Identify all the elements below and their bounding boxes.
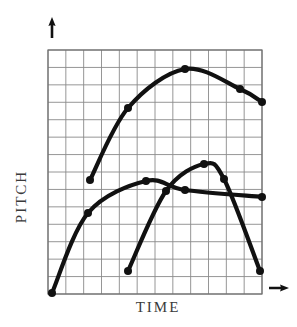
data-point-marker [48, 289, 56, 297]
data-point-marker [220, 175, 228, 183]
grid-layer [48, 50, 262, 294]
pitch-contour-figure: PITCH TIME [0, 0, 297, 327]
data-point-marker [258, 98, 266, 106]
data-point-marker [258, 193, 266, 201]
x-axis-label: TIME [108, 299, 208, 316]
data-point-marker [181, 186, 189, 194]
pitch-contour-line [90, 69, 262, 180]
data-point-marker [256, 267, 264, 275]
data-point-marker [200, 160, 208, 168]
data-point-marker [124, 104, 132, 112]
data-point-marker [86, 176, 94, 184]
data-point-marker [162, 187, 170, 195]
plot-canvas [0, 0, 297, 327]
arrow-up-icon [48, 17, 55, 38]
arrow-right-icon [269, 284, 289, 291]
data-point-marker [181, 65, 189, 73]
data-point-marker [124, 267, 132, 275]
y-axis-label: PITCH [13, 162, 30, 232]
data-point-marker [236, 85, 244, 93]
data-point-marker [142, 177, 150, 185]
data-point-marker [84, 209, 92, 217]
